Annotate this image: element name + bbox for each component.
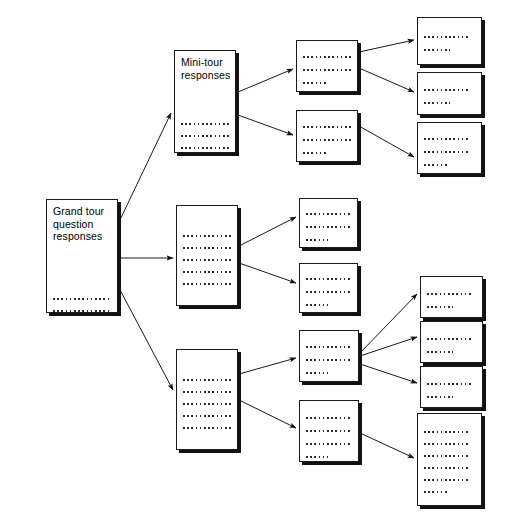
diagram-arrow: [238, 69, 293, 92]
dotted-text-line: [303, 152, 327, 154]
dotted-text-line: [424, 431, 470, 433]
dotted-text-line: [424, 443, 470, 445]
dotted-text-line: [306, 359, 352, 361]
dotted-text-line: [306, 443, 352, 445]
diagram-arrow: [119, 288, 173, 390]
diagram-arrow: [359, 40, 414, 52]
diagram-node[interactable]: [296, 40, 358, 92]
dotted-text-line: [306, 239, 328, 241]
dotted-text-line: [427, 383, 473, 385]
dotted-text-line: [427, 293, 473, 295]
dotted-text-line: [183, 271, 231, 273]
dotted-text-line: [427, 351, 453, 353]
dotted-text-line: [424, 89, 470, 91]
node-text-lines: [306, 346, 352, 382]
dotted-text-line: [424, 479, 470, 481]
diagram-node[interactable]: [296, 110, 358, 162]
dotted-text-line: [183, 415, 231, 417]
diagram-node[interactable]: [420, 321, 483, 363]
diagram-node[interactable]: Mini-tour responses: [174, 50, 236, 153]
dotted-text-line: [306, 456, 328, 458]
node-text-lines: [306, 417, 352, 462]
dotted-text-line: [303, 126, 351, 128]
diagram-node[interactable]: [417, 72, 482, 115]
diagram-arrow: [239, 217, 296, 246]
diagram-arrow: [119, 113, 171, 222]
diagram-arrow: [360, 364, 417, 383]
diagram-node[interactable]: [299, 263, 358, 313]
dotted-text-line: [183, 427, 231, 429]
node-text-lines: [424, 89, 475, 115]
dotted-text-line: [183, 403, 231, 405]
node-text-lines: [424, 36, 475, 62]
diagram-arrow: [359, 68, 414, 92]
diagram-arrow: [360, 294, 417, 353]
dotted-text-line: [427, 306, 453, 308]
dotted-text-line: [424, 49, 450, 51]
node-text-lines: [303, 126, 351, 162]
diagram-node[interactable]: [176, 349, 238, 450]
dotted-text-line: [424, 164, 448, 166]
diagram-node[interactable]: [420, 276, 483, 318]
diagram-arrow: [359, 126, 414, 157]
dotted-text-line: [424, 455, 470, 457]
diagram-canvas: Grand tour question responsesMini-tour r…: [0, 0, 507, 532]
diagram-node[interactable]: [417, 122, 482, 174]
dotted-text-line: [424, 138, 470, 140]
diagram-node[interactable]: Grand tour question responses: [46, 199, 118, 313]
node-title: Mini-tour responses: [181, 56, 229, 81]
node-text-lines: [427, 383, 476, 408]
dotted-text-line: [53, 310, 111, 312]
node-text-lines: [427, 338, 476, 363]
diagram-node[interactable]: [299, 198, 358, 248]
dotted-text-line: [181, 135, 229, 137]
node-text-lines: [424, 138, 475, 174]
dotted-text-line: [424, 151, 470, 153]
node-text-lines: [427, 293, 476, 318]
diagram-node[interactable]: [417, 17, 482, 65]
dotted-text-line: [303, 56, 351, 58]
node-text-lines: [183, 379, 231, 439]
dotted-text-line: [306, 417, 352, 419]
diagram-node[interactable]: [299, 400, 359, 462]
dotted-text-line: [306, 213, 351, 215]
dotted-text-line: [424, 467, 470, 469]
dotted-text-line: [427, 338, 473, 340]
node-text-lines: [424, 431, 475, 503]
dotted-text-line: [427, 396, 453, 398]
dotted-text-line: [306, 291, 351, 293]
diagram-arrow: [239, 263, 296, 283]
node-text-lines: [183, 235, 231, 295]
diagram-arrow: [238, 115, 293, 135]
dotted-text-line: [303, 69, 351, 71]
dotted-text-line: [181, 147, 229, 149]
dotted-text-line: [306, 430, 352, 432]
node-text-lines: [181, 123, 229, 153]
dotted-text-line: [424, 36, 470, 38]
diagram-arrow: [239, 358, 296, 374]
dotted-text-line: [306, 226, 351, 228]
diagram-node[interactable]: [299, 330, 359, 382]
diagram-node[interactable]: [176, 205, 238, 306]
dotted-text-line: [306, 278, 351, 280]
diagram-node[interactable]: [417, 413, 482, 506]
diagram-node[interactable]: [420, 366, 483, 408]
dotted-text-line: [306, 304, 328, 306]
dotted-text-line: [183, 235, 231, 237]
node-text-lines: [303, 56, 351, 92]
node-text-lines: [53, 298, 111, 314]
diagram-arrow: [360, 337, 417, 356]
dotted-text-line: [303, 139, 351, 141]
dotted-text-line: [183, 379, 231, 381]
dotted-text-line: [303, 82, 327, 84]
diagram-arrow: [239, 400, 296, 428]
node-title: Grand tour question responses: [53, 205, 111, 243]
node-text-lines: [306, 278, 351, 313]
diagram-arrow: [360, 433, 414, 458]
dotted-text-line: [183, 391, 231, 393]
node-text-lines: [306, 213, 351, 248]
dotted-text-line: [424, 102, 450, 104]
dotted-text-line: [183, 247, 231, 249]
dotted-text-line: [306, 346, 352, 348]
dotted-text-line: [183, 259, 231, 261]
